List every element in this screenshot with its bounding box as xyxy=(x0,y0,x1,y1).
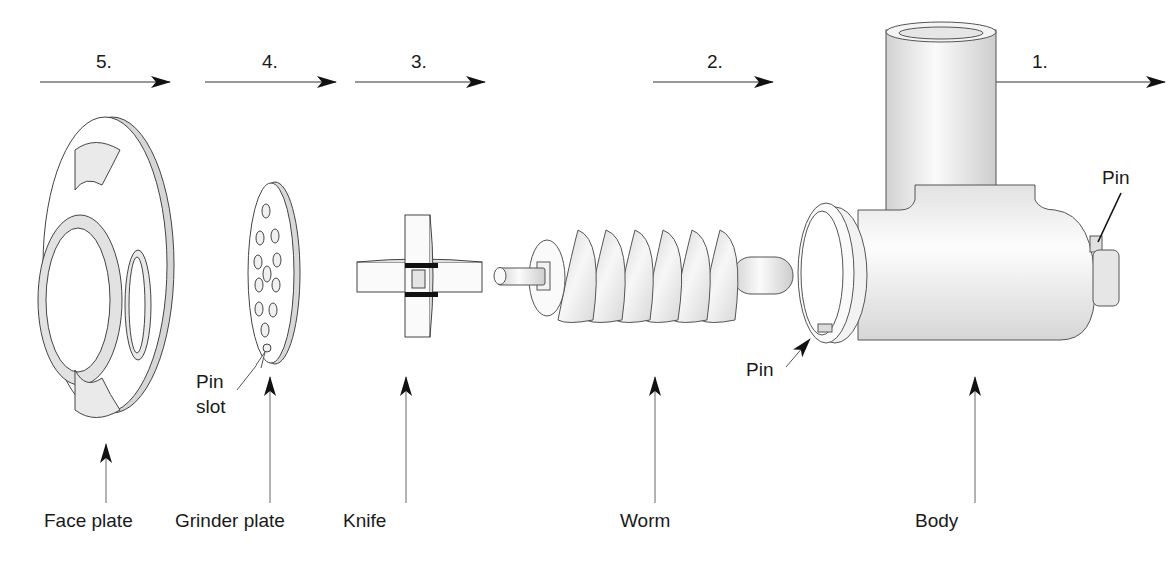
pin-rear-leader xyxy=(1098,193,1121,242)
step-4-label: 4. xyxy=(262,52,278,71)
grinder-plate-label: Grinder plate xyxy=(175,511,285,530)
pin-slot-label-line2: slot xyxy=(196,397,226,416)
body-drawing xyxy=(798,22,1119,343)
pin-inner-label: Pin xyxy=(746,360,773,379)
worm-label: Worm xyxy=(620,511,670,530)
knife-drawing xyxy=(357,215,482,337)
part-pointer-arrows xyxy=(106,377,975,503)
step-3-label: 3. xyxy=(411,52,427,71)
pin-inner-leader xyxy=(786,339,810,367)
grinder-exploded-diagram xyxy=(0,0,1175,564)
step-1-label: 1. xyxy=(1032,52,1048,71)
face-plate-label: Face plate xyxy=(44,511,133,530)
worm-drawing xyxy=(494,230,793,323)
step-2-label: 2. xyxy=(707,52,723,71)
knife-label: Knife xyxy=(343,511,386,530)
pin-rear-label: Pin xyxy=(1102,168,1129,187)
grinder-plate-drawing xyxy=(248,182,300,364)
body-label: Body xyxy=(915,511,958,530)
step-5-label: 5. xyxy=(96,52,112,71)
face-plate-drawing xyxy=(38,117,174,418)
pin-slot-label-line1: Pin xyxy=(196,372,223,391)
